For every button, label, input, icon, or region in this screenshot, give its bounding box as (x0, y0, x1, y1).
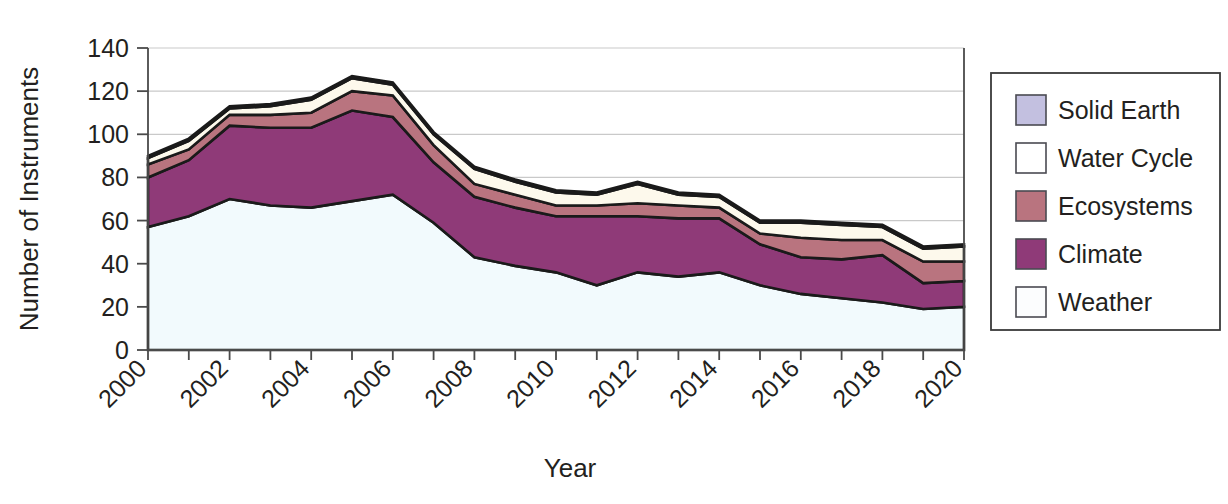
legend: Solid EarthWater CycleEcosystemsClimateW… (991, 73, 1220, 330)
y-tick-label: 40 (101, 250, 129, 278)
y-tick-label: 140 (87, 34, 129, 62)
x-tick-label: 2010 (500, 354, 559, 413)
x-axis-ticks (148, 350, 964, 360)
legend-label-ecosystems: Ecosystems (1058, 192, 1193, 220)
x-tick-label: 2018 (827, 354, 886, 413)
x-tick-label: 2014 (664, 354, 723, 413)
y-axis-ticks: 140120100806040200 (87, 34, 148, 364)
y-tick-label: 20 (101, 293, 129, 321)
y-axis-title: Number of Instruments (14, 67, 44, 331)
legend-label-weather: Weather (1058, 288, 1152, 316)
legend-swatch-water-cycle[interactable] (1016, 143, 1046, 173)
x-tick-label: 2020 (908, 354, 967, 413)
legend-swatch-solid-earth[interactable] (1016, 95, 1046, 125)
legend-swatch-weather[interactable] (1016, 287, 1046, 317)
x-tick-label: 2002 (174, 354, 233, 413)
x-axis-title: Year (544, 453, 597, 483)
legend-swatch-ecosystems[interactable] (1016, 191, 1046, 221)
x-tick-label: 2012 (582, 354, 641, 413)
y-tick-label: 60 (101, 207, 129, 235)
x-axis-tick-labels: 2000200220042006200820102012201420162018… (92, 354, 967, 413)
legend-label-solid-earth: Solid Earth (1058, 96, 1180, 124)
x-tick-label: 2004 (256, 354, 315, 413)
y-tick-label: 80 (101, 163, 129, 191)
stacked-area-chart: 140120100806040200 200020022004200620082… (0, 0, 1228, 504)
legend-swatch-climate[interactable] (1016, 239, 1046, 269)
legend-label-climate: Climate (1058, 240, 1143, 268)
x-tick-label: 2000 (92, 354, 151, 413)
legend-label-water-cycle: Water Cycle (1058, 144, 1193, 172)
x-tick-label: 2006 (337, 354, 396, 413)
x-tick-label: 2008 (419, 354, 478, 413)
chart-canvas: 140120100806040200 200020022004200620082… (0, 0, 1228, 504)
y-tick-label: 120 (87, 77, 129, 105)
x-tick-label: 2016 (745, 354, 804, 413)
y-tick-label: 100 (87, 120, 129, 148)
